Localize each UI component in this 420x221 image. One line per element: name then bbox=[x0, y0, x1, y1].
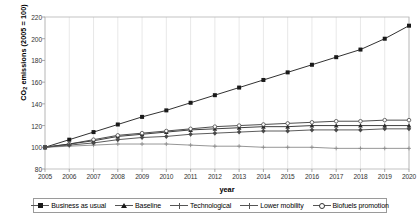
line-chart: CO2 emissions (2005 = 100) 8010012014016… bbox=[0, 0, 420, 221]
legend-marker-icon bbox=[31, 202, 49, 210]
data-point-marker bbox=[165, 129, 169, 133]
data-point-marker bbox=[383, 37, 387, 41]
data-point-marker bbox=[140, 131, 144, 135]
series-line-lower-mobility bbox=[45, 144, 409, 148]
data-point-marker bbox=[334, 127, 338, 132]
legend-marker-icon bbox=[313, 202, 331, 210]
data-point-marker bbox=[92, 130, 96, 134]
data-point-marker bbox=[262, 123, 266, 127]
data-point-marker bbox=[383, 118, 387, 122]
legend-marker-icon bbox=[170, 202, 188, 210]
data-point-marker bbox=[189, 101, 193, 105]
legend-item[interactable]: Business as usual bbox=[31, 202, 106, 210]
legend-item[interactable]: Technological bbox=[170, 202, 231, 210]
data-point-marker bbox=[334, 55, 338, 59]
legend-item[interactable]: Baseline bbox=[115, 202, 161, 210]
data-point-marker bbox=[286, 122, 290, 126]
data-point-marker bbox=[310, 63, 314, 67]
data-point-marker bbox=[407, 118, 411, 122]
data-point-marker bbox=[310, 121, 314, 125]
legend-item[interactable]: Lower mobility bbox=[240, 202, 303, 210]
x-axis-title: year bbox=[45, 185, 409, 194]
data-point-marker bbox=[140, 115, 144, 119]
legend-label: Biofuels promotion bbox=[333, 202, 389, 209]
data-point-marker bbox=[310, 127, 314, 132]
chart-legend: Business as usualBaselineTechnologicalLo… bbox=[33, 198, 387, 213]
legend-label: Lower mobility bbox=[260, 202, 303, 209]
data-point-marker bbox=[237, 86, 241, 90]
data-point-marker bbox=[359, 119, 363, 123]
data-point-marker bbox=[237, 124, 241, 128]
data-point-marker bbox=[237, 130, 241, 135]
data-point-marker bbox=[213, 131, 217, 136]
data-point-marker bbox=[67, 138, 71, 142]
data-point-marker bbox=[286, 70, 290, 74]
legend-label: Baseline bbox=[135, 202, 161, 209]
data-point-marker bbox=[358, 127, 362, 132]
data-point-marker bbox=[334, 119, 338, 123]
data-point-marker bbox=[116, 122, 120, 126]
legend-marker-icon bbox=[115, 202, 133, 210]
data-point-marker bbox=[407, 24, 411, 28]
legend-label: Technological bbox=[190, 202, 231, 209]
series-line-baseline bbox=[45, 126, 409, 148]
legend-label: Business as usual bbox=[51, 202, 106, 209]
series-line-technological bbox=[45, 120, 409, 147]
data-point-marker bbox=[285, 129, 289, 134]
data-point-marker bbox=[164, 134, 168, 139]
legend-marker-icon bbox=[240, 202, 258, 210]
data-point-marker bbox=[189, 127, 193, 131]
data-point-marker bbox=[164, 108, 168, 112]
data-point-marker bbox=[358, 48, 362, 52]
data-point-marker bbox=[188, 132, 192, 137]
data-point-marker bbox=[213, 93, 217, 97]
data-point-marker bbox=[116, 134, 120, 138]
data-point-marker bbox=[213, 125, 217, 129]
legend-item[interactable]: Biofuels promotion bbox=[313, 202, 389, 210]
data-point-marker bbox=[261, 78, 265, 82]
series-line-business-as-usual bbox=[45, 26, 409, 148]
data-point-marker bbox=[261, 129, 265, 134]
